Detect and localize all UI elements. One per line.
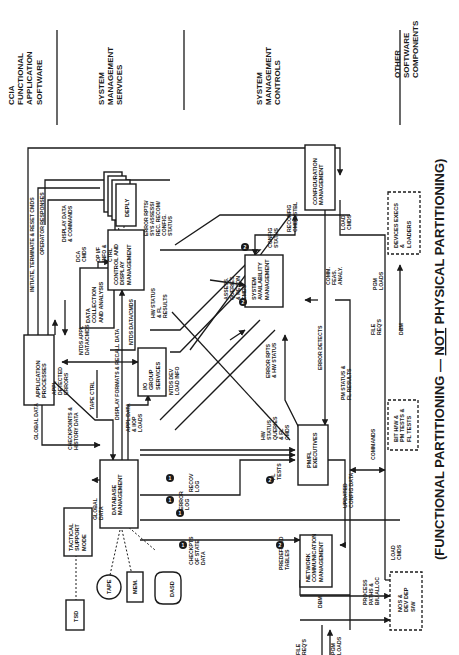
header-sms-text: SYSTEMMANAGEMENTSERVICES	[97, 47, 124, 105]
storage-tape: TAPE	[97, 575, 121, 599]
svg-text:DEPLY: DEPLY	[124, 199, 130, 217]
header-sms: SYSTEMMANAGEMENTSERVICES	[97, 47, 124, 105]
svg-text:1: 1	[179, 510, 182, 516]
svg-text:PM STATUS &FL RESULTS: PM STATUS &FL RESULTS	[340, 365, 352, 400]
svg-text:INITIATE, TERMINATE & RESET CM: INITIATE, TERMINATE & RESET CMDS	[29, 197, 35, 292]
svg-text:ASSESS.QUERIES& RECONCMDS: ASSESS.QUERIES& RECONCMDS	[223, 276, 247, 300]
svg-text:NTDS APPLDATA/CMDS: NTDS APPLDATA/CMDS	[78, 324, 90, 355]
caption-text: (FUNCTIONAL PARTITIONING — NOT PHYSICAL …	[432, 159, 447, 560]
svg-text:PGMLOADS: PGMLOADS	[372, 271, 384, 290]
svg-text:1: 1	[169, 475, 172, 481]
svg-text:DASD: DASD	[169, 581, 175, 597]
svg-text:CONFIGSTATUS: CONFIGSTATUS	[267, 227, 279, 248]
svg-text:2: 2	[242, 299, 245, 305]
flow-labels: INITIATE, TERMINATE & RESET CMDS OPERATO…	[29, 192, 404, 655]
box-control-display: CONTROL ANDDISPLAYMANAGEMENT	[108, 230, 144, 290]
svg-text:DISPLAY DATA& COMMANDS: DISPLAY DATA& COMMANDS	[61, 205, 73, 242]
box-device-execs: DEVICES EXECS&LOADERS	[388, 192, 420, 254]
header-ccia-text: CCIAFUNCTIONALAPPLICATIONSOFTWARE	[7, 51, 44, 105]
header-other: OTHERSOFTWARECOMPONENTS	[393, 20, 420, 78]
svg-text:1: 1	[182, 542, 185, 548]
svg-text:ERROR DETECTS: ERROR DETECTS	[317, 325, 323, 370]
svg-text:TSD: TSD	[73, 611, 79, 622]
svg-text:DBM: DBM	[398, 323, 404, 335]
box-application-processes: APPLICATIONPROCESSES	[24, 335, 54, 405]
box-database-management: DATABASEMANAGEMENT	[100, 460, 138, 528]
svg-text:FILEREQ'S: FILEREQ'S	[295, 639, 307, 655]
svg-text:APPL DATA& I/OPLOADS: APPL DATA& I/OPLOADS	[125, 403, 143, 432]
box-tactical-support: TACTICALSUPPORTMODE	[64, 508, 92, 556]
svg-text:ERROR RPTS& HW STATUS: ERROR RPTS& HW STATUS	[265, 342, 277, 378]
svg-text:NTDS DATA/CMDS: NTDS DATA/CMDS	[128, 299, 134, 345]
marker-1: 1	[166, 496, 174, 504]
svg-text:2: 2	[269, 477, 272, 483]
svg-text:1: 1	[169, 497, 172, 503]
header-ccia: CCIAFUNCTIONALAPPLICATIONSOFTWARE	[7, 51, 44, 105]
svg-text:ERROR RPTS/SYS ASSESS/REC. REC: ERROR RPTS/SYS ASSESS/REC. RECOM/CONFIG.…	[143, 200, 173, 236]
svg-text:COMMANDS: COMMANDS	[370, 428, 376, 460]
storage-dasd: DASD	[155, 572, 181, 604]
svg-text:TAPE CTRL: TAPE CTRL	[89, 380, 95, 410]
box-pmfl-executives: PM/FLEXECUTIVES	[298, 425, 328, 485]
marker-2: 2	[241, 243, 249, 251]
svg-text:UPDATEDCONFIG DATA: UPDATEDCONFIG DATA	[342, 472, 354, 508]
svg-text:LOADCMDS: LOADCMDS	[390, 544, 402, 560]
svg-text:LOADCMDS: LOADCMDS	[340, 214, 352, 230]
svg-text:DBM: DBM	[317, 596, 323, 608]
svg-text:TAPE: TAPE	[106, 579, 112, 594]
marker-2: 2	[276, 541, 284, 549]
svg-text:RECOVLOG: RECOVLOG	[188, 473, 200, 492]
box-network-communication: NETWORKCOMMUNICATIONMANAGEMENT	[300, 534, 332, 587]
svg-text:GLOBAL DATA: GLOBAL DATA	[33, 403, 39, 440]
svg-text:CONFIGURATIONMANAGEMENT: CONFIGURATIONMANAGEMENT	[312, 158, 324, 205]
svg-text:HWSTATUSQUERIES& FLCMDS: HWSTATUSQUERIES& FLCMDS	[260, 416, 290, 440]
svg-text:COMM.FEAS.ANALY.: COMM.FEAS.ANALY.	[325, 266, 343, 285]
box-bit-tests: BIT H/W &PM TESTS &FL TESTS	[388, 400, 418, 450]
header-smc: SYSTEMMANAGEMENTCONTROLS	[255, 47, 282, 105]
marker-1: 1	[166, 474, 174, 482]
marker-2: 2	[239, 298, 247, 306]
svg-text:PROCESSPATHS &BIU ALLOC: PROCESSPATHS &BIU ALLOC	[362, 577, 380, 605]
svg-text:ERRORLOG: ERRORLOG	[178, 491, 190, 510]
svg-text:2: 2	[279, 542, 282, 548]
layer-headers: CCIAFUNCTIONALAPPLICATIONSOFTWARE SYSTEM…	[7, 20, 420, 125]
marker-2: 2	[266, 476, 274, 484]
svg-text:NTDS DEVLOAD INFO: NTDS DEVLOAD INFO	[168, 366, 180, 395]
svg-text:RECONFIGCMDS/STBL: RECONFIGCMDS/STBL	[286, 201, 298, 232]
functional-partitioning-diagram: CCIAFUNCTIONALAPPLICATIONSOFTWARE SYSTEM…	[0, 0, 459, 655]
svg-text:DCACMDS: DCACMDS	[75, 246, 87, 262]
caption: (FUNCTIONAL PARTITIONING — NOT PHYSICAL …	[432, 159, 447, 560]
svg-text:DISPLAY FORMATS & RECALL DATA: DISPLAY FORMATS & RECALL DATA	[114, 328, 120, 420]
svg-text:CHECKPOINTS &HISTORY DATA: CHECKPOINTS &HISTORY DATA	[67, 407, 79, 450]
box-configuration-management: CONFIGURATIONMANAGEMENT	[305, 145, 335, 210]
storage-mem: MEM.	[127, 572, 143, 602]
svg-text:HW STATUS& FLRESULTS: HW STATUS& FLRESULTS	[150, 287, 168, 318]
box-nos-dev-dep: NOS &DEV DEPS/W	[390, 572, 422, 630]
svg-text:2: 2	[244, 244, 247, 250]
svg-text:MEM.: MEM.	[132, 579, 138, 594]
svg-text:PGMLOADS: PGMLOADS	[330, 636, 342, 655]
svg-text:APPLICATIONPROCESSES: APPLICATIONPROCESSES	[35, 361, 47, 399]
header-smc-text: SYSTEMMANAGEMENTCONTROLS	[255, 47, 282, 105]
box-io-group: I/OGROUPSERVICES	[138, 348, 166, 396]
svg-text:OPERATOR RESPONSES: OPERATOR RESPONSES	[39, 192, 45, 255]
svg-text:FILEREQ'S: FILEREQ'S	[370, 319, 382, 335]
marker-1: 1	[176, 509, 184, 517]
marker-1: 1	[179, 541, 187, 549]
header-other-text: OTHERSOFTWARECOMPONENTS	[393, 20, 420, 78]
box-tsd: TSD	[66, 600, 84, 630]
box-system-availability: SYSTEMAVAILABILITYMANAGEMENT	[245, 255, 283, 307]
